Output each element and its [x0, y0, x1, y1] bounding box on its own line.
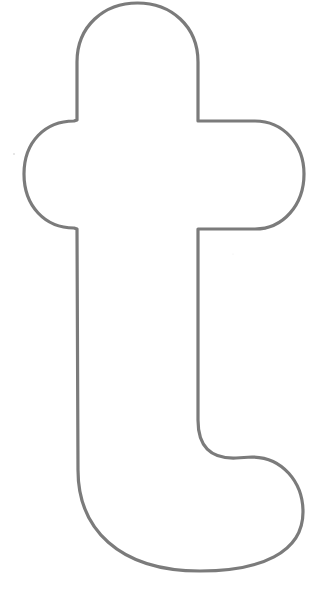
- letter-t-canvas: [0, 0, 329, 602]
- speck: [13, 153, 15, 155]
- speck: [232, 253, 233, 254]
